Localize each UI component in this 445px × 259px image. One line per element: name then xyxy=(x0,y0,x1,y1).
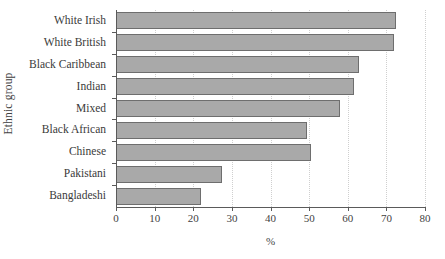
bar xyxy=(116,144,311,161)
bar xyxy=(116,78,354,95)
y-axis-tick xyxy=(112,119,116,120)
plot-area xyxy=(116,10,425,207)
bar xyxy=(116,122,307,139)
y-axis-tick-label: Black Caribbean xyxy=(29,54,106,76)
y-axis-tick-label: Bangladeshi xyxy=(49,185,106,207)
y-axis-tick-label: White British xyxy=(44,32,106,54)
bar xyxy=(116,188,201,205)
y-axis-tick xyxy=(112,98,116,99)
x-axis-tick xyxy=(386,207,387,211)
x-axis-tick-label: 80 xyxy=(410,212,440,224)
y-axis-tick-labels: White IrishWhite BritishBlack CaribbeanI… xyxy=(0,10,110,207)
y-axis-tick-label: Pakistani xyxy=(64,163,106,185)
bar-chart: Ethnic group White IrishWhite BritishBla… xyxy=(0,0,445,259)
x-axis-tick xyxy=(348,207,349,211)
bar xyxy=(116,166,222,183)
x-axis-tick xyxy=(193,207,194,211)
y-axis-tick-label: Indian xyxy=(77,76,106,98)
x-axis-tick-label: 70 xyxy=(371,212,401,224)
x-axis-tick xyxy=(271,207,272,211)
x-axis-tick-label: 50 xyxy=(294,212,324,224)
y-axis-tick-label: Chinese xyxy=(69,141,106,163)
x-axis-tick xyxy=(232,207,233,211)
bar xyxy=(116,56,359,73)
y-axis-tick xyxy=(112,76,116,77)
y-axis-tick-label: Black African xyxy=(42,119,106,141)
x-axis-tick-label: 30 xyxy=(217,212,247,224)
x-axis-tick-label: 20 xyxy=(178,212,208,224)
x-axis-title: % xyxy=(116,235,425,247)
x-axis-tick-label: 0 xyxy=(101,212,131,224)
x-axis-tick xyxy=(425,207,426,211)
bar xyxy=(116,100,340,117)
y-axis-tick-label: Mixed xyxy=(76,98,106,120)
x-axis-tick-label: 10 xyxy=(140,212,170,224)
bar xyxy=(116,12,396,29)
y-axis-tick xyxy=(112,163,116,164)
y-axis-tick xyxy=(112,54,116,55)
x-axis-tick-label: 60 xyxy=(333,212,363,224)
y-axis-tick xyxy=(112,32,116,33)
x-axis-tick xyxy=(309,207,310,211)
gridline-x-80 xyxy=(425,10,426,207)
x-axis-tick xyxy=(116,207,117,211)
bar xyxy=(116,34,394,51)
x-axis-tick-label: 40 xyxy=(256,212,286,224)
y-axis-tick-label: White Irish xyxy=(54,10,106,32)
y-axis-tick xyxy=(112,185,116,186)
y-axis-line xyxy=(116,10,117,208)
x-axis-tick xyxy=(155,207,156,211)
y-axis-tick xyxy=(112,141,116,142)
